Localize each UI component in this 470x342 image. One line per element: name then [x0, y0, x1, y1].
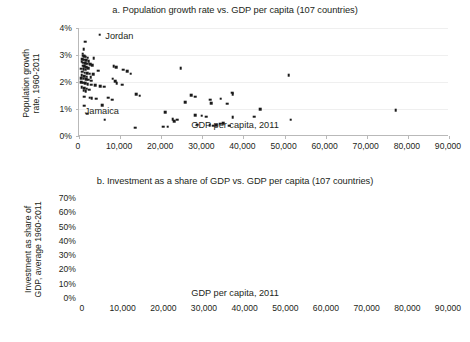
scatter-point	[209, 98, 212, 101]
y-tick-label: 0%	[0, 131, 72, 141]
scatter-point	[92, 73, 95, 76]
scatter-point	[111, 98, 114, 101]
y-tick-mark	[76, 82, 79, 83]
y-tick-mark	[76, 55, 79, 56]
x-tick-mark	[202, 136, 203, 139]
x-tick-label: 70,000	[353, 141, 379, 151]
x-tick-mark	[326, 136, 327, 139]
x-tick-label: 80,000	[394, 303, 420, 313]
scatter-point	[94, 84, 97, 87]
x-tick-label: 60,000	[313, 303, 339, 313]
y-tick-label: 40%	[0, 236, 76, 246]
y-tick-mark	[76, 109, 79, 110]
scatter-point	[220, 97, 223, 100]
scatter-point	[194, 96, 197, 99]
scatter-point	[135, 93, 138, 96]
scatter-point	[90, 83, 93, 86]
scatter-point	[115, 66, 118, 69]
x-tick-label: 10,000	[106, 141, 132, 151]
y-tick-label: 50%	[0, 222, 76, 232]
y-tick-label: 70%	[0, 193, 76, 203]
x-tick-mark	[161, 136, 162, 139]
scatter-point	[210, 102, 213, 105]
scatter-point	[91, 64, 94, 67]
x-tick-mark	[408, 136, 409, 139]
gridline-horizontal	[79, 109, 448, 110]
x-tick-label: 90,000	[435, 141, 461, 151]
x-tick-mark	[367, 136, 368, 139]
scatter-point	[139, 94, 142, 97]
scatter-point	[95, 97, 98, 100]
x-tick-label: 60,000	[312, 141, 338, 151]
x-tick-label: 40,000	[229, 141, 255, 151]
scatter-point	[287, 74, 290, 77]
x-tick-label: 30,000	[188, 141, 214, 151]
scatter-point	[126, 70, 129, 73]
point-annotation: Jordan	[105, 31, 133, 41]
scatter-point	[90, 97, 93, 100]
y-tick-label: 4%	[0, 23, 72, 33]
x-tick-mark	[120, 136, 121, 139]
scatter-point	[253, 115, 256, 118]
x-tick-label: 20,000	[150, 303, 176, 313]
gridline-horizontal	[79, 28, 448, 29]
scatter-point	[231, 116, 234, 119]
y-tick-label: 3%	[0, 50, 72, 60]
chart-a-title: a. Population growth rate vs. GDP per ca…	[0, 5, 470, 15]
scatter-point	[87, 67, 90, 70]
scatter-point	[98, 33, 101, 36]
scatter-point	[88, 88, 91, 91]
scatter-point	[103, 86, 106, 89]
y-tick-label: 20%	[0, 264, 76, 274]
scatter-point	[116, 82, 119, 85]
x-tick-label: 10,000	[110, 303, 136, 313]
scatter-point	[130, 73, 133, 76]
scatter-point	[179, 67, 182, 70]
chart-b-title: b. Investment as a share of GDP vs. GDP …	[0, 176, 470, 186]
scatter-point	[164, 111, 167, 114]
scatter-point	[107, 96, 110, 99]
x-tick-label: 0	[80, 303, 85, 313]
scatter-point	[84, 90, 87, 93]
scatter-point	[84, 40, 87, 43]
x-tick-label: 30,000	[191, 303, 217, 313]
gridline-horizontal	[79, 55, 448, 56]
chart-a-x-axis-label: GDP per capita, 2011	[0, 120, 470, 130]
scatter-point	[226, 102, 229, 105]
scatter-point	[93, 57, 96, 60]
x-tick-label: 20,000	[147, 141, 173, 151]
chart-figure-population-growth: a. Population growth rate vs. GDP per ca…	[0, 0, 470, 171]
scatter-point	[194, 114, 197, 117]
scatter-point	[90, 79, 93, 82]
y-tick-label: 2%	[0, 77, 72, 87]
scatter-point	[200, 114, 203, 117]
x-tick-label: 50,000	[270, 141, 296, 151]
scatter-point	[259, 108, 262, 111]
x-tick-label: 80,000	[394, 141, 420, 151]
x-tick-label: 50,000	[272, 303, 298, 313]
y-tick-label: 30%	[0, 250, 76, 260]
y-tick-mark	[76, 28, 79, 29]
scatter-point	[231, 93, 234, 96]
x-tick-label: 0	[76, 141, 81, 151]
scatter-point	[184, 101, 187, 104]
scatter-point	[82, 48, 85, 51]
scatter-point	[122, 69, 125, 72]
scatter-point	[88, 73, 91, 76]
scatter-point	[121, 83, 124, 86]
x-tick-label: 70,000	[354, 303, 380, 313]
y-tick-label: 10%	[0, 279, 76, 289]
chart-figure-investment-share: b. Investment as a share of GDP vs. GDP …	[0, 171, 470, 342]
y-tick-label: 0%	[0, 293, 76, 303]
scatter-point	[97, 69, 100, 72]
x-tick-label: 90,000	[435, 303, 461, 313]
scatter-point	[86, 83, 89, 86]
x-tick-mark	[243, 136, 244, 139]
x-tick-label: 40,000	[232, 303, 258, 313]
x-tick-mark	[449, 136, 450, 139]
x-tick-mark	[285, 136, 286, 139]
y-tick-label: 60%	[0, 207, 76, 217]
y-tick-label: 1%	[0, 104, 72, 114]
scatter-point	[83, 96, 86, 99]
x-tick-mark	[79, 136, 80, 139]
